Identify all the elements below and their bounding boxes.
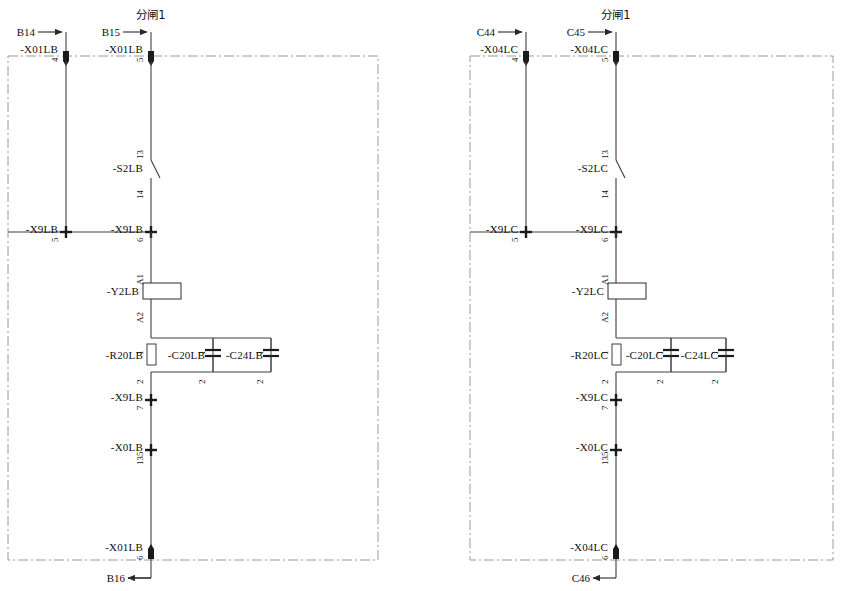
resistor-terminal-bottom-r20lc: 2 (601, 380, 610, 385)
terminal-number-x01lb-6: 6 (136, 556, 145, 561)
resistor-body-r20lb[interactable] (147, 344, 156, 365)
switch-terminal-bottom-s2lc: 14 (601, 190, 610, 199)
terminal-number-x9lb-5: 5 (51, 238, 60, 243)
capacitor-terminal-bottom-c24lb: 2 (256, 380, 265, 385)
terminal-number-x04lc-4: 4 (511, 58, 520, 63)
terminal-label-x9lc-7: -X9LC (576, 392, 608, 403)
junction-x9lc-5 (520, 226, 532, 238)
panel-boundary-lc (470, 56, 833, 560)
source-label-b16: B16 (107, 572, 125, 584)
junction-x9lb-5 (60, 226, 72, 238)
terminal-label-x01lb-4: -X01LB (20, 44, 58, 55)
junction-x9lc-7 (610, 394, 622, 406)
terminal-label-x9lb-7: -X9LB (111, 392, 143, 403)
coil-terminal-top-y2lb: A1 (136, 274, 145, 285)
terminal-label-x9lc-6: -X9LC (576, 224, 608, 235)
terminal-number-x9lc-7: 7 (601, 406, 610, 411)
switch-blade-s2lc[interactable] (616, 160, 625, 178)
capacitor-terminal-bottom-c20lb: 2 (198, 380, 207, 385)
capacitor-label-c20lb: -C20LB (168, 350, 205, 361)
terminal-number-x01lb-4: 4 (51, 58, 60, 63)
coil-label-y2lb: -Y2LB (107, 286, 139, 297)
capacitor-symbol-c24lb[interactable] (263, 338, 279, 372)
capacitor-symbol-c24lc[interactable] (718, 338, 734, 372)
terminal-number-x04lc-5: 5 (601, 58, 610, 63)
source-label-c44: C44 (477, 26, 495, 38)
coil-terminal-bottom-y2lc: A2 (601, 312, 610, 323)
terminal-dot-x01lb-6 (148, 544, 154, 559)
terminal-number-x01lb-5: 5 (136, 58, 145, 63)
capacitor-label-c20lc: -C20LC (626, 350, 663, 361)
resistor-label-r20lb: -R20LB (106, 350, 143, 361)
schematic-sheet: 分闸1 B14 B15 -X01LB 4 -X01LB 5 13 -S2LB 1… (0, 0, 845, 591)
switch-terminal-top-s2lb: 13 (136, 150, 145, 159)
terminal-label-x04lc-5: -X04LC (570, 44, 608, 55)
resistor-terminal-bottom-r20lb: 2 (136, 380, 145, 385)
source-label-b15: B15 (102, 26, 120, 38)
junction-x0lb-135 (145, 444, 157, 456)
capacitor-label-c24lb: -C24LB (226, 350, 263, 361)
switch-label-s2lc: -S2LC (578, 163, 608, 174)
capacitor-symbol-c20lb[interactable] (205, 338, 221, 372)
resistor-body-r20lc[interactable] (612, 344, 621, 365)
terminal-number-x9lc-6: 6 (601, 238, 610, 243)
capacitor-terminal-bottom-c24lc: 2 (711, 380, 720, 385)
capacitor-terminal-bottom-c20lc: 2 (656, 380, 665, 385)
coil-body-y2lb[interactable] (143, 283, 181, 299)
circuit-title-lc: 分闸1 (601, 6, 630, 22)
terminal-label-x9lb-6: -X9LB (111, 224, 143, 235)
coil-terminal-top-y2lc: A1 (601, 274, 610, 285)
junction-x9lb-7 (145, 394, 157, 406)
terminal-number-x0lb-135: 135 (136, 452, 145, 466)
source-label-c45: C45 (567, 26, 585, 38)
terminal-number-x9lb-6: 6 (136, 238, 145, 243)
switch-terminal-bottom-s2lb: 14 (136, 190, 145, 199)
terminal-dot-x04lc-6 (613, 544, 619, 559)
terminal-number-x04lc-6: 6 (601, 556, 610, 561)
capacitor-symbol-c20lc[interactable] (663, 338, 679, 372)
resistor-label-r20lc: -R20LC (571, 350, 608, 361)
source-label-c46: C46 (572, 572, 590, 584)
switch-terminal-top-s2lc: 13 (601, 150, 610, 159)
terminal-number-x9lc-5: 5 (511, 238, 520, 243)
panel-boundary-lb (8, 56, 378, 560)
switch-blade-s2lb[interactable] (151, 160, 160, 178)
terminal-number-x9lb-7: 7 (136, 406, 145, 411)
circuit-lb-graphics (8, 32, 378, 578)
coil-label-y2lc: -Y2LC (572, 286, 604, 297)
terminal-label-x04lc-4: -X04LC (480, 44, 518, 55)
circuit-lc-graphics (470, 32, 833, 578)
terminal-label-x9lb-5: -X9LB (26, 224, 58, 235)
terminal-label-x01lb-6: -X01LB (105, 542, 143, 553)
source-label-b14: B14 (17, 26, 35, 38)
terminal-number-x0lc-135: 135 (601, 452, 610, 466)
coil-terminal-bottom-y2lb: A2 (136, 312, 145, 323)
terminal-label-x9lc-5: -X9LC (486, 224, 518, 235)
capacitor-label-c24lc: -C24LC (681, 350, 718, 361)
coil-body-y2lc[interactable] (608, 283, 646, 299)
switch-label-s2lb: -S2LB (113, 163, 143, 174)
circuit-title-lb: 分闸1 (136, 6, 165, 22)
terminal-label-x01lb-5: -X01LB (105, 44, 143, 55)
terminal-label-x04lc-6: -X04LC (570, 542, 608, 553)
junction-x0lc-135 (610, 444, 622, 456)
